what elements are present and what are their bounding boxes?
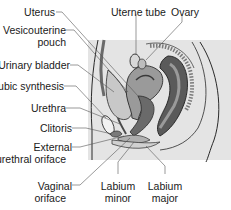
label-pubic-symphysis: Pubic synthesis — [0, 80, 64, 92]
label-urinary-bladder: Urinary bladder — [0, 59, 70, 71]
label-clitoris: Clitoris — [40, 122, 72, 134]
ovary-shape — [138, 59, 146, 69]
label-labium-minor-line1: Labium — [100, 180, 136, 192]
label-vaginal-oriface-line2: oriface — [34, 192, 66, 204]
label-vesicouterine-pouch-line2: pouch — [37, 36, 66, 48]
label-ovary: Ovary — [171, 6, 199, 18]
label-external-urethral-line1: External — [33, 141, 72, 153]
label-uterus: Uterus — [24, 6, 55, 18]
label-external-urethral-line2: urethral oriface — [0, 153, 66, 165]
label-labium-major-line2: major — [147, 192, 183, 204]
label-vesicouterine-pouch-line1: Vesicouterine — [3, 24, 66, 36]
label-labium-minor-line2: minor — [100, 192, 136, 204]
label-uterine-tube: Uterne tube — [111, 6, 166, 18]
label-urethra: Urethra — [31, 102, 66, 114]
label-vaginal-oriface-line1: Vaginal — [38, 180, 72, 192]
label-labium-major-line1: Labium — [147, 180, 183, 192]
